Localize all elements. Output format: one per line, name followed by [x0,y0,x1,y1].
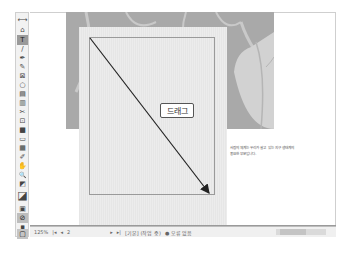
body-text-line-2: 중요한 부분입니다. [230,151,320,157]
body-text[interactable]: 사람의 체계는 우리가 살고 있는 지구 생태계의 중요한 부분입니다. [230,145,320,157]
status-bar: 125% |◂ ◂ 2 ▸ ▸| [기본] (작업 중) ● 오류 없음 [30,226,336,237]
first-page-button[interactable]: |◂ [52,229,56,235]
next-page-button[interactable]: ▸ [110,229,113,235]
drag-arrow-icon [0,0,356,259]
scrollbar-thumb[interactable] [280,229,306,235]
prev-page-button[interactable]: ◂ [61,229,64,235]
horizontal-scrollbar[interactable] [276,229,326,235]
drag-callout: 드래그 [160,103,194,118]
zoom-level[interactable]: 125% [34,229,48,235]
error-status[interactable]: ● 오류 없음 [165,229,193,236]
page-number-field[interactable]: 2 [67,229,70,235]
last-page-button[interactable]: ▸| [117,229,121,235]
preflight-profile[interactable]: [기본] (작업 중) [125,229,161,236]
